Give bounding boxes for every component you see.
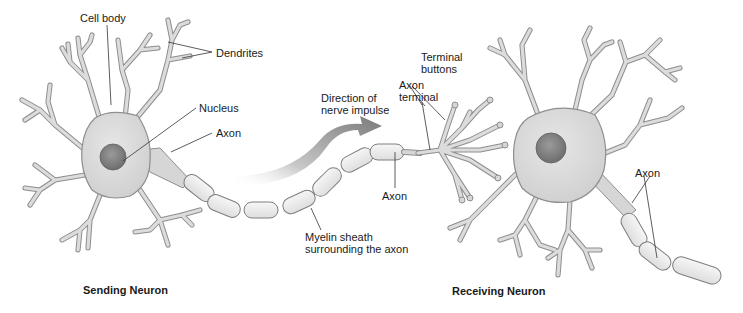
title-sending-neuron: Sending Neuron <box>83 284 168 296</box>
label-direction-line1: Direction of <box>321 92 377 104</box>
axon-terminal-branches <box>418 97 508 203</box>
label-axon-terminal-line2: terminal <box>399 91 438 103</box>
label-myelin-line2: surrounding the axon <box>305 243 408 255</box>
label-axon-receiving: Axon <box>635 167 660 179</box>
label-axon-sending: Axon <box>216 127 241 139</box>
label-terminal-buttons-line1: Terminal <box>421 51 463 63</box>
myelin-sheath-sending <box>181 144 404 220</box>
label-terminal-buttons-line2: buttons <box>421 63 457 75</box>
label-direction-line2: nerve impulse <box>321 104 389 116</box>
label-cell-body: Cell body <box>80 12 126 24</box>
sending-neuron <box>22 20 200 250</box>
myelin-sheath-receiving <box>618 210 723 286</box>
neuron-illustration <box>0 0 743 313</box>
label-nucleus: Nucleus <box>199 102 239 114</box>
neuron-diagram: Cell body Dendrites Nucleus Axon Directi… <box>0 0 743 313</box>
receiving-nucleus <box>536 133 566 163</box>
label-axon-terminal-line1: Axon <box>399 79 424 91</box>
label-axon-middle: Axon <box>382 190 407 202</box>
title-receiving-neuron: Receiving Neuron <box>452 285 546 297</box>
label-myelin-line1: Myelin sheath <box>305 231 373 243</box>
sending-nucleus <box>100 144 126 170</box>
label-dendrites: Dendrites <box>216 47 263 59</box>
